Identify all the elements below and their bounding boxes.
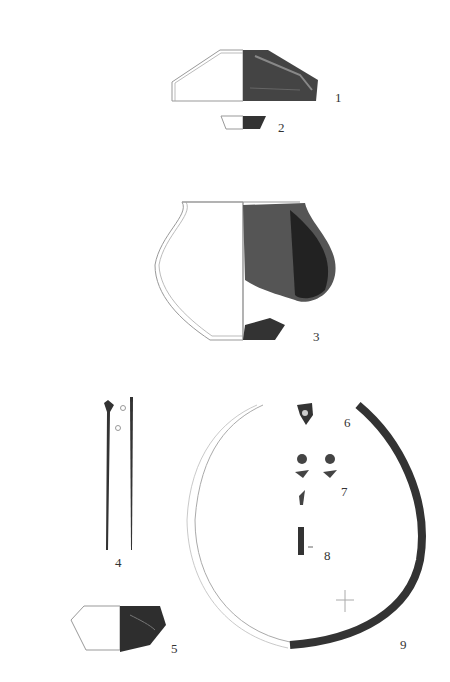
object-8 [298,527,313,555]
figure-label-6: 6 [344,415,351,431]
figure-label-5: 5 [171,641,178,657]
vessel-5 [71,606,166,652]
figure-label-4: 4 [115,555,122,571]
ring-9 [187,405,422,648]
object-6 [297,403,313,425]
figure-label-1: 1 [335,90,342,106]
vessel-2 [221,116,266,129]
vessel-1 [172,50,318,101]
figure-label-2: 2 [278,120,285,136]
pin-4 [104,397,133,550]
figure-label-7: 7 [341,484,348,500]
figure-label-9: 9 [400,637,407,653]
figure-label-8: 8 [324,548,331,564]
objects-7 [295,454,337,505]
figure-label-3: 3 [313,329,320,345]
archaeological-plate [0,0,450,682]
vessel-3 [155,202,336,340]
